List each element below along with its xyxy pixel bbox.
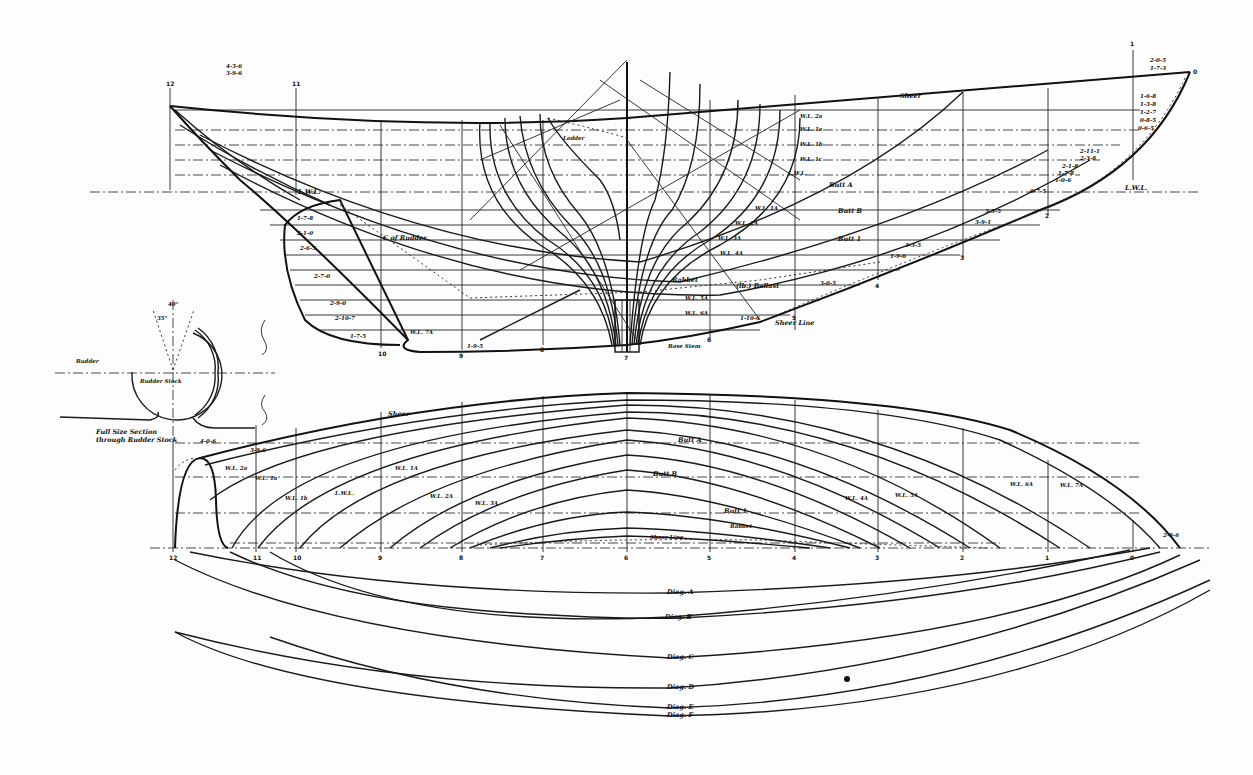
hb-buttock-a-label: Butt A <box>677 436 702 444</box>
hb-offset-aft2: 3-9-6 <box>250 447 266 453</box>
svg-text:1-3-8: 1-3-8 <box>1140 101 1156 107</box>
svg-text:1-7-8: 1-7-8 <box>1058 170 1074 176</box>
svg-text:4: 4 <box>792 554 796 561</box>
half-breadth-plan: Sheer Butt A Butt B Butt 1 Rabbet Sheer … <box>150 393 1210 561</box>
angle-40-label: 40° <box>168 301 179 307</box>
svg-text:2-9-0: 2-9-0 <box>329 300 346 306</box>
svg-text:2: 2 <box>960 554 964 561</box>
body-plan: Ladder <box>470 60 800 352</box>
svg-text:1: 1 <box>1045 554 1049 561</box>
keel-outline <box>284 200 627 352</box>
buttock-1-label: Butt 1 <box>837 235 861 243</box>
diagonal-e-label: Diag. E <box>666 703 694 711</box>
svg-text:6: 6 <box>707 336 711 343</box>
svg-text:9: 9 <box>378 554 382 561</box>
svg-text:11: 11 <box>253 554 261 561</box>
svg-text:W.L. 1c: W.L. 1c <box>800 156 823 162</box>
ballast-label: (lb.) Ballast <box>736 282 779 290</box>
buttock-b <box>210 150 1048 282</box>
svg-text:7: 7 <box>624 354 628 361</box>
buttock-a-label: Butt A <box>828 181 853 189</box>
svg-text:1-2-7: 1-2-7 <box>1140 109 1156 115</box>
hb-offset-fwd: 2-9-6 <box>1162 532 1179 538</box>
svg-text:3-5-5: 3-5-5 <box>985 208 1001 214</box>
sheer-line <box>170 72 1190 123</box>
svg-text:W.L. 1b: W.L. 1b <box>285 495 308 501</box>
svg-text:2-1-8: 2-1-8 <box>1061 163 1078 169</box>
rudder-label: Rudder <box>75 358 100 364</box>
svg-text:W.L. 4A: W.L. 4A <box>845 495 868 501</box>
diagonal-a <box>190 548 1150 593</box>
svg-text:W.L. 2a: W.L. 2a <box>225 465 248 471</box>
hb-buttock-b-label: Butt B <box>652 470 677 478</box>
svg-text:W.L. 1b: W.L. 1b <box>800 141 823 147</box>
svg-text:11: 11 <box>292 80 300 87</box>
svg-text:4-3-6: 4-3-6 <box>226 63 242 69</box>
svg-text:2-1-0: 2-1-0 <box>296 230 313 236</box>
hb-offset-aft: 4-0-6 <box>200 438 216 444</box>
svg-text:3-9-1: 3-9-1 <box>975 219 991 225</box>
hb-rabbet-label: Rabbet <box>729 523 752 529</box>
svg-text:2: 2 <box>1045 212 1049 219</box>
svg-text:2-10-7: 2-10-7 <box>334 315 355 321</box>
transom-outline <box>175 458 228 548</box>
diagonal-d-label: Diag. D <box>666 683 694 691</box>
sheer-label: Sheer <box>900 92 922 100</box>
svg-text:10: 10 <box>293 554 301 561</box>
rudder-caption-line2: through Rudder Stock <box>96 436 178 444</box>
svg-text:3: 3 <box>875 554 879 561</box>
svg-text:2-0-5: 2-0-5 <box>1149 57 1166 63</box>
svg-text:0-6-5: 0-6-5 <box>1138 125 1154 131</box>
lines-drawing-sheet: Sheer L.W.L. L.W.L. Butt A Butt B Butt 1… <box>0 0 1253 775</box>
svg-text:0-8-5: 0-8-5 <box>1140 117 1156 123</box>
profile-offsets-aft: 4-3-6 3-9-6 1-7-8 2-1-0 2-6-5 2-7-0 2-9-… <box>226 63 760 349</box>
svg-text:8: 8 <box>540 346 544 353</box>
svg-text:W.L. 7A: W.L. 7A <box>1060 482 1083 488</box>
svg-text:L.W.L.: L.W.L. <box>334 490 354 496</box>
svg-text:0-7-5: 0-7-5 <box>1030 188 1046 194</box>
svg-text:3-9-6: 3-9-6 <box>226 70 242 76</box>
svg-text:4: 4 <box>875 282 879 289</box>
svg-text:1-7-8: 1-7-8 <box>297 215 313 221</box>
diagonal-a-label: Diag. A <box>666 588 693 596</box>
svg-text:W.L. 1a: W.L. 1a <box>800 126 823 132</box>
lines-drawing: Sheer L.W.L. L.W.L. Butt A Butt B Butt 1… <box>0 0 1253 775</box>
base-label: Base Stem <box>667 343 701 349</box>
hb-buttock-1-label: Butt 1 <box>723 507 747 515</box>
diagonal-c-label: Diag. C <box>666 653 694 661</box>
stem-profile <box>627 72 1190 345</box>
svg-text:6: 6 <box>624 554 628 561</box>
hb-sheer-label: Sheer <box>388 410 410 418</box>
svg-text:1-0-6: 1-0-6 <box>1055 177 1071 183</box>
svg-text:W.L. 6A: W.L. 6A <box>685 310 708 316</box>
hb-sheer-line-label: Sheer Line <box>650 534 684 540</box>
diagonal-f-label: Diag. F <box>666 711 693 719</box>
svg-text:W.L. 3A: W.L. 3A <box>475 500 498 506</box>
svg-text:0: 0 <box>1193 68 1197 75</box>
buttock-1 <box>220 160 1090 295</box>
svg-text:1-6-8: 1-6-8 <box>1140 93 1156 99</box>
diagonals-plan: Diag. A Diag. B Diag. C Diag. D Diag. E … <box>175 548 1210 719</box>
svg-text:1-9-5: 1-9-5 <box>467 343 483 349</box>
lwl-label-aft: L.W.L. <box>297 188 320 196</box>
diagonal-d <box>175 560 1200 688</box>
diagonal-e <box>270 580 1210 708</box>
svg-text:1-7-5: 1-7-5 <box>350 333 366 339</box>
svg-text:W.L. 7A: W.L. 7A <box>410 329 433 335</box>
svg-text:W.L. 5A: W.L. 5A <box>895 492 918 498</box>
profile-stations <box>170 50 1133 352</box>
svg-text:3-0-5: 3-0-5 <box>820 280 836 286</box>
svg-text:W.L. 1a: W.L. 1a <box>255 475 278 481</box>
svg-text:3: 3 <box>960 254 964 261</box>
rudder-caption-line1: Full Size Section <box>95 428 157 436</box>
rudder-section: Rudder Rudder Stock 40° 35° Full Size Se… <box>55 300 275 444</box>
svg-text:12: 12 <box>166 80 174 87</box>
svg-text:9: 9 <box>459 352 463 359</box>
svg-text:1: 1 <box>1130 40 1134 47</box>
diagonal-b-label: Diag. B <box>664 613 692 621</box>
svg-text:3-3-5: 3-3-5 <box>905 242 921 248</box>
angle-35-label: 35° <box>157 315 168 321</box>
svg-text:2-11-1: 2-11-1 <box>1079 148 1100 154</box>
svg-text:10: 10 <box>378 350 386 357</box>
svg-text:W.L. 4A: W.L. 4A <box>720 250 743 256</box>
